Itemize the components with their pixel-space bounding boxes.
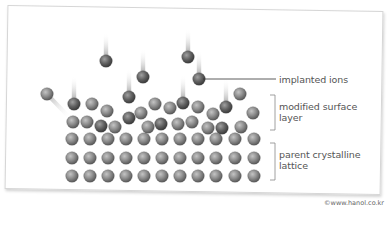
lattice-atom xyxy=(156,152,169,165)
surface-atom xyxy=(192,101,205,114)
surface-atom xyxy=(235,121,248,134)
lattice-atom xyxy=(138,152,151,165)
implanted-ion xyxy=(123,91,136,104)
lattice-atom xyxy=(66,170,79,183)
lattice-atom xyxy=(210,133,223,146)
ion-trail xyxy=(197,51,201,75)
lattice-atom xyxy=(248,133,261,146)
lattice-atom xyxy=(84,170,97,183)
implanted-ion xyxy=(220,101,233,114)
surface-atom xyxy=(101,105,114,118)
surface-atom xyxy=(247,107,260,120)
implanted-ion xyxy=(137,71,150,84)
label-parent-crystalline-lattice: parent crystalline lattice xyxy=(279,149,369,171)
surface-displaced-atom xyxy=(123,112,136,125)
ion-trail xyxy=(224,79,228,103)
lattice-atom xyxy=(102,133,115,146)
surface-atom xyxy=(164,102,177,115)
lattice-atom xyxy=(229,152,242,165)
lattice-atom xyxy=(102,152,115,165)
bracket-modified-surface-layer xyxy=(270,95,275,130)
surface-atom xyxy=(135,107,148,120)
surface-atom xyxy=(86,98,99,111)
surface-atom xyxy=(202,122,215,135)
surface-atom xyxy=(207,108,220,121)
lattice-atom xyxy=(192,152,205,165)
lattice-atom xyxy=(210,152,223,165)
lattice-atom xyxy=(66,133,79,146)
ion-trail xyxy=(127,69,131,93)
surface-displaced-atom xyxy=(216,122,229,135)
bracket-parent-crystalline-lattice xyxy=(270,143,275,180)
implanted-ion xyxy=(182,51,195,64)
surface-atom xyxy=(149,98,162,111)
ion-trail xyxy=(186,29,190,53)
lattice-atom xyxy=(120,133,133,146)
surface-displaced-atom xyxy=(155,118,168,131)
lattice-atom xyxy=(248,152,261,165)
lattice-atom xyxy=(120,170,133,183)
sputtered-atom xyxy=(41,88,54,101)
surface-displaced-atom xyxy=(95,120,108,133)
lattice-atom xyxy=(84,152,97,165)
lattice-atom xyxy=(84,133,97,146)
ion-trail xyxy=(72,76,76,100)
lattice-atom xyxy=(174,170,187,183)
implanted-ion xyxy=(100,55,113,68)
surface-atom xyxy=(67,116,80,129)
surface-atom xyxy=(186,116,199,129)
ion-trail xyxy=(141,49,145,73)
lattice-atom xyxy=(192,170,205,183)
lattice-atom xyxy=(156,170,169,183)
surface-atom xyxy=(142,121,155,134)
label-modified-surface-layer: modified surface layer xyxy=(279,101,369,123)
lattice-atom xyxy=(138,133,151,146)
surface-atom xyxy=(109,121,122,134)
lattice-atom xyxy=(174,152,187,165)
lattice-atom xyxy=(174,133,187,146)
lattice-atom xyxy=(120,152,133,165)
surface-atom xyxy=(81,116,94,129)
lattice-atom xyxy=(229,170,242,183)
surface-atom xyxy=(234,88,247,101)
lattice-atom xyxy=(156,133,169,146)
ion-trail xyxy=(104,33,108,57)
surface-atom xyxy=(172,118,185,131)
lattice-atom xyxy=(210,170,223,183)
label-implanted-ions: implanted ions xyxy=(279,74,348,85)
copyright-credit: ©www.hanol.co.kr xyxy=(324,199,384,207)
lattice-atom xyxy=(192,133,205,146)
lattice-atom xyxy=(248,170,261,183)
atoms xyxy=(41,51,261,183)
implanted-ion xyxy=(68,98,81,111)
ion-trail xyxy=(181,75,185,99)
lattice-atom xyxy=(102,170,115,183)
implanted-ion xyxy=(177,97,190,110)
lattice-atom xyxy=(66,152,79,165)
lattice-atom xyxy=(229,133,242,146)
lattice-atom xyxy=(138,170,151,183)
